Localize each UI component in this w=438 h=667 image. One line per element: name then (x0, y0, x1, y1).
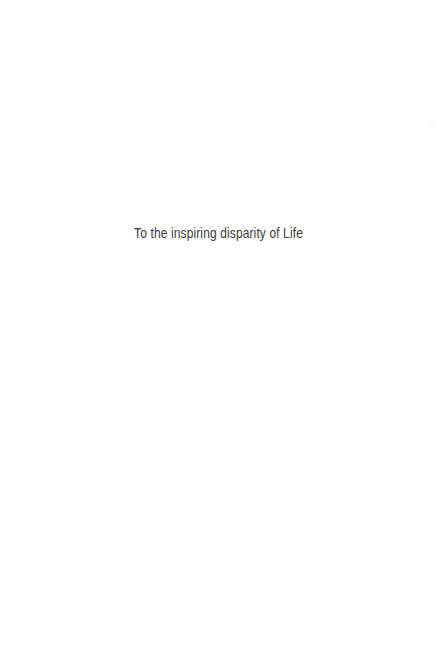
book-page: To the inspiring disparity of Life (0, 0, 438, 667)
dedication-text: To the inspiring disparity of Life (135, 222, 304, 244)
dedication-block: To the inspiring disparity of Life (0, 222, 438, 244)
scan-artifact-speck (427, 120, 437, 128)
